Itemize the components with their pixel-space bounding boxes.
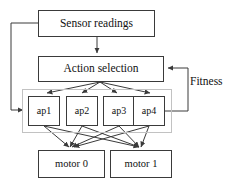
node-ap4[interactable]: ap4 — [133, 96, 165, 126]
node-ap2-label: ap2 — [75, 106, 89, 116]
node-motor-0-label: motor 0 — [55, 159, 88, 170]
node-action-selection-label: Action selection — [63, 63, 138, 75]
architecture-diagram: Sensor readings Action selection ap1 ap2… — [0, 0, 236, 183]
fitness-label: Fitness — [190, 76, 223, 88]
node-motor-1-label: motor 1 — [125, 159, 158, 170]
node-ap4-label: ap4 — [142, 106, 156, 116]
node-ap2[interactable]: ap2 — [66, 96, 98, 126]
node-ap1[interactable]: ap1 — [28, 96, 60, 126]
node-sensor-readings[interactable]: Sensor readings — [38, 10, 155, 37]
node-action-selection[interactable]: Action selection — [38, 56, 164, 82]
node-motor-1[interactable]: motor 1 — [110, 150, 172, 178]
node-ap1-label: ap1 — [37, 106, 51, 116]
node-motor-0[interactable]: motor 0 — [38, 150, 105, 178]
node-ap3[interactable]: ap3 — [103, 96, 135, 126]
node-sensor-readings-label: Sensor readings — [60, 18, 133, 30]
node-ap3-label: ap3 — [112, 106, 126, 116]
